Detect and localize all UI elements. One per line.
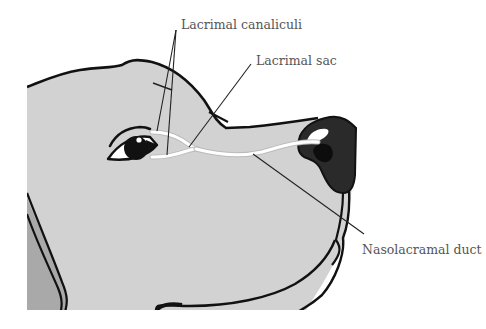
dog-head-diagram — [0, 0, 486, 329]
eye-highlight — [136, 137, 141, 142]
eyeball — [124, 136, 148, 160]
label-lacrimal-sac: Lacrimal sac — [256, 55, 337, 68]
label-nasolacrimal-duct: Nasolacramal duct — [362, 244, 482, 257]
label-lacrimal-canaliculi: Lacrimal canaliculi — [181, 19, 302, 32]
